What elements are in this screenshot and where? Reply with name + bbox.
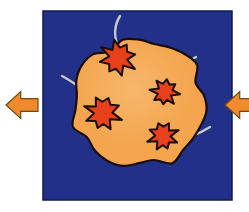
figure-illustration [0,0,249,212]
illustration-canvas [0,0,249,212]
lumpy-sphere [72,39,206,166]
